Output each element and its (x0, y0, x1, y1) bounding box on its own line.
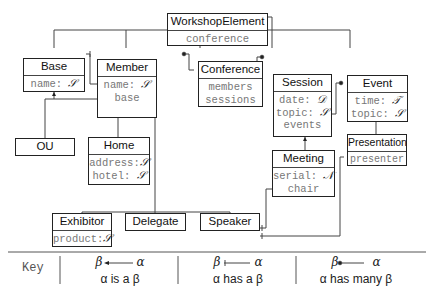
class-attributes: presenter (348, 152, 406, 169)
type-time-symbol: 𝒯 (392, 94, 400, 107)
attribute: name: 𝒮 (24, 78, 84, 91)
class-title: Member (98, 60, 156, 77)
key-caption: α is a β (62, 271, 178, 288)
key-arrow-has-many: βα (298, 254, 414, 271)
class-title: Event (348, 76, 407, 93)
key-item-has-a: βα α has a β (180, 254, 296, 288)
class-conference: Conference members sessions (198, 61, 263, 107)
class-attributes: name: 𝒮 base (98, 77, 156, 106)
class-attributes: address:𝒮 hotel: 𝒮 (89, 155, 149, 184)
class-attributes: conference (168, 31, 267, 48)
type-string-symbol: 𝒮 (395, 107, 404, 120)
class-ou: OU (15, 138, 75, 156)
attribute: base (98, 92, 156, 105)
class-meeting: Meeting serial: 𝒩 chair (272, 150, 335, 197)
type-number-symbol: 𝒩 (323, 169, 334, 182)
type-string-symbol: 𝒮 (68, 77, 77, 90)
key-label: Key (22, 261, 44, 275)
class-title: OU (16, 139, 74, 155)
key-caption: α has many β (298, 271, 414, 288)
key-item-has-many: βα α has many β (298, 254, 414, 288)
attribute: topic: 𝒮 (348, 108, 407, 121)
attribute: conference (168, 33, 267, 46)
class-attributes: time: 𝒯 topic: 𝒮 (348, 93, 407, 122)
class-title: Presentation (348, 135, 406, 152)
class-workshopelement: WorkshopElement conference (167, 13, 268, 46)
attribute: members (199, 81, 262, 94)
attribute: presenter (348, 154, 406, 167)
type-string-symbol: 𝒮 (137, 169, 146, 182)
attribute: chair (273, 183, 334, 196)
class-attributes: date: 𝒟 topic: 𝒮 events (274, 92, 331, 134)
attribute: name: 𝒮 (98, 79, 156, 92)
class-title: WorkshopElement (168, 14, 267, 31)
key-arrow-has-a: βα (180, 254, 296, 271)
class-title: Delegate (126, 214, 185, 230)
class-diagram: WorkshopElement conference Base name: 𝒮 … (0, 0, 426, 298)
key-caption: α has a β (180, 271, 296, 288)
class-title: Conference (199, 62, 262, 79)
class-attributes: members sessions (199, 79, 262, 108)
class-base: Base name: 𝒮 (23, 58, 85, 92)
class-event: Event time: 𝒯 topic: 𝒮 (347, 75, 408, 122)
class-title: Speaker (201, 214, 259, 230)
class-attributes: name: 𝒮 (24, 76, 84, 93)
class-attributes: product:𝒮 (53, 231, 111, 248)
class-session: Session date: 𝒟 topic: 𝒮 events (273, 74, 332, 137)
class-home: Home address:𝒮 hotel: 𝒮 (88, 137, 150, 185)
class-speaker: Speaker (200, 213, 260, 231)
class-title: Meeting (273, 151, 334, 168)
type-string-symbol: 𝒮 (103, 232, 112, 245)
class-exhibitor: Exhibitor product:𝒮 (52, 213, 112, 247)
class-presentation: Presentation presenter (347, 134, 407, 166)
type-date-symbol: 𝒟 (317, 93, 326, 106)
class-title: Home (89, 138, 149, 155)
class-attributes: serial: 𝒩 chair (273, 168, 334, 197)
type-string-symbol: 𝒮 (141, 78, 150, 91)
class-title: Base (24, 59, 84, 76)
attribute: hotel: 𝒮 (89, 170, 149, 183)
key-item-is-a: βα α is a β (62, 254, 178, 288)
class-title: Exhibitor (53, 214, 111, 231)
type-string-symbol: 𝒮 (140, 156, 149, 169)
attribute: product:𝒮 (53, 233, 111, 246)
type-string-symbol: 𝒮 (320, 106, 329, 119)
attribute: topic: 𝒮 (274, 107, 331, 120)
class-title: Session (274, 75, 331, 92)
class-member: Member name: 𝒮 base (97, 59, 157, 118)
key-arrow-is-a: βα (62, 254, 178, 271)
attribute: events (274, 119, 331, 132)
attribute: sessions (199, 94, 262, 107)
attribute: serial: 𝒩 (273, 170, 334, 183)
class-delegate: Delegate (125, 213, 186, 231)
